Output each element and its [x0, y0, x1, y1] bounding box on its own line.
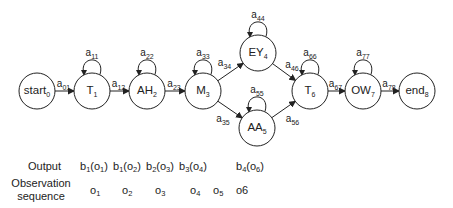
output-cell: b1(o2)	[113, 160, 141, 174]
edge-label: a01	[57, 78, 70, 91]
state-node-OW7: a77OW7	[345, 47, 381, 109]
output-cell: b1(o1)	[80, 160, 108, 174]
self-loop-label: a66	[303, 47, 316, 60]
self-loop-label: a55	[250, 84, 263, 97]
edge-label: a34	[218, 57, 231, 70]
observation-cell: o1	[90, 184, 100, 198]
edge-OW7-end: a78	[381, 78, 399, 91]
edge-start-T1: a01	[55, 78, 74, 91]
state-node-T6: a66T6	[292, 47, 328, 109]
edge-T6-OW7: a67	[328, 78, 345, 91]
state-node-T1: a11T1	[74, 47, 110, 109]
edge-label: a78	[382, 78, 395, 91]
state-node-AH2: a22AH2	[129, 47, 165, 109]
edge-AA5-T6: a56	[272, 101, 300, 125]
self-loop-label: a44	[251, 9, 264, 22]
observation-cell: o3	[155, 184, 165, 198]
edge-label: a35	[216, 113, 229, 126]
edge-label: a56	[286, 113, 299, 126]
self-loop-label: a11	[86, 47, 99, 60]
state-node-AA5: a55AA5	[239, 84, 275, 146]
edge-M3-EY4: a34	[218, 57, 243, 81]
self-loop-label: a22	[140, 47, 153, 60]
observation-cell: o5	[213, 184, 223, 198]
edge-label: a12	[112, 78, 125, 91]
observation-cell: o6	[236, 184, 248, 196]
edge-label: a23	[167, 78, 180, 91]
observation-label-line2: sequence	[17, 190, 65, 202]
hmm-state-diagram: a01a12a23a34a35a46a56a67a78 start0a11T1a…	[0, 0, 453, 150]
output-cell: b3(o4)	[179, 160, 207, 174]
observation-cell: o4	[190, 184, 200, 198]
self-loop-label: a77	[356, 47, 369, 60]
observation-cell: o2	[122, 184, 132, 198]
output-cell: b2(o3)	[146, 160, 174, 174]
self-loop-label: a33	[196, 47, 209, 60]
edge-T1-AH2: a12	[110, 78, 129, 91]
edge-label: a67	[329, 78, 342, 91]
observation-row-label: Observation sequence	[6, 177, 76, 203]
observation-label-line1: Observation	[11, 177, 70, 189]
state-node-start: start0	[19, 73, 55, 109]
output-row-label: Output	[28, 160, 61, 173]
state-node-EY4: a44EY4	[240, 9, 276, 71]
edge-M3-AA5: a35	[216, 101, 242, 125]
edge-EY4-T6: a46	[273, 59, 299, 80]
state-node-end: end8	[399, 73, 435, 109]
output-cell: b4(o6)	[236, 160, 264, 174]
edge-AH2-M3: a23	[165, 78, 185, 91]
edge-label: a46	[285, 59, 298, 72]
state-node-M3: a33M3	[185, 47, 221, 109]
